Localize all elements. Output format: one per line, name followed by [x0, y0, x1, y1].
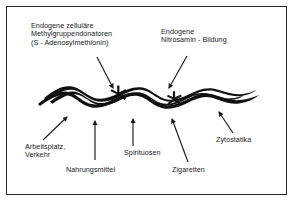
- arrow-zigaretten-to-helix: [172, 119, 188, 162]
- label-nahrungsmittel: Nahrungsmittel: [66, 166, 115, 174]
- label-methylgruppendonatoren: Endogene zelluläre Methylgruppendonatore…: [31, 22, 112, 47]
- arrow-nitrosamin-to-helix: [169, 56, 187, 88]
- arrow-methyl-to-helix: [97, 57, 113, 88]
- arrow-zytostatika-to-helix: [219, 112, 233, 133]
- label-endogene-nitrosamin-bildung: Endogene Nitrosamin - Bildung: [161, 28, 227, 45]
- label-spirituosen: Spirituosen: [124, 149, 161, 157]
- dna-helix-ribbon: [38, 86, 259, 108]
- arrow-arbeitsplatz-to-helix: [43, 117, 67, 140]
- label-zytostatika: Zytostatika: [216, 136, 251, 144]
- label-arbeitsplatz-verkehr: Arbeitsplatz, Verkehr: [25, 143, 65, 160]
- figure-root: Endogene zelluläre Methylgruppendonatore…: [0, 0, 295, 203]
- label-zigaretten: Zigaretten: [172, 166, 205, 174]
